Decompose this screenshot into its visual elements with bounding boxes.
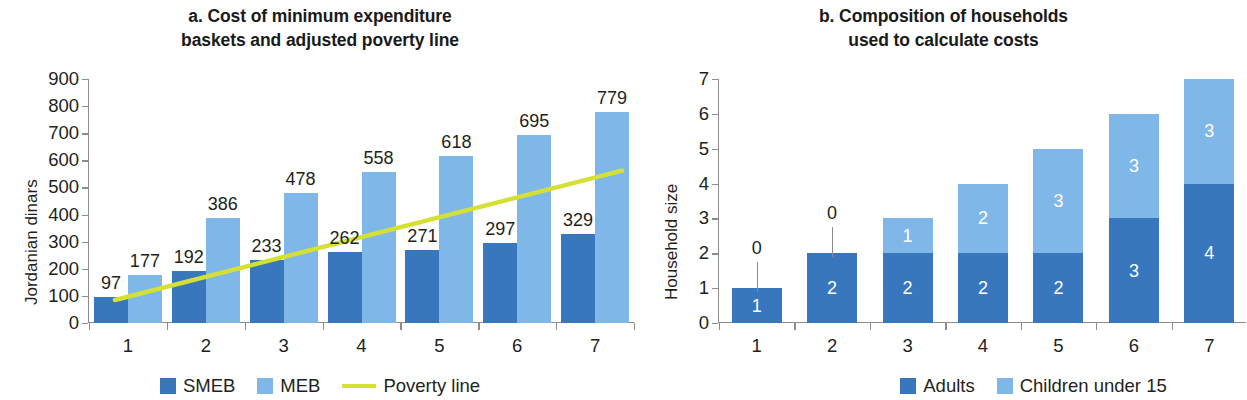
- x-tick-label[interactable]: 2: [827, 335, 837, 357]
- bar-value-label[interactable]: 329: [563, 210, 593, 231]
- legend-line-icon[interactable]: [342, 384, 376, 388]
- segment-value-label[interactable]: 2: [978, 278, 988, 299]
- y-tick-label[interactable]: 200: [29, 258, 79, 280]
- segment-value-label[interactable]: 3: [1129, 156, 1139, 177]
- y-tick-label[interactable]: 600: [29, 149, 79, 171]
- x-tick[interactable]: [1096, 323, 1097, 330]
- y-tick[interactable]: [82, 133, 88, 134]
- segment-value-label[interactable]: 2: [978, 208, 988, 229]
- y-tick[interactable]: [82, 296, 88, 297]
- bar-value-label[interactable]: 478: [286, 169, 316, 190]
- legend-item-poverty-line[interactable]: Poverty line: [342, 375, 480, 397]
- bar-value-label[interactable]: 386: [208, 194, 238, 215]
- bar-value-label[interactable]: 618: [441, 132, 471, 153]
- y-tick-label[interactable]: 400: [29, 204, 79, 226]
- x-tick[interactable]: [245, 323, 246, 330]
- y-tick[interactable]: [712, 79, 718, 80]
- bar-value-label[interactable]: 177: [130, 251, 160, 272]
- x-tick-label[interactable]: 6: [512, 335, 522, 357]
- y-tick-label[interactable]: 300: [29, 231, 79, 253]
- legend-item-meb[interactable]: MEB: [257, 375, 320, 397]
- y-tick-label[interactable]: 100: [29, 285, 79, 307]
- segment-value-label[interactable]: 2: [903, 278, 913, 299]
- x-tick[interactable]: [400, 323, 401, 330]
- bar-value-label[interactable]: 192: [174, 247, 204, 268]
- y-tick-label[interactable]: 0: [29, 312, 79, 334]
- x-tick-label[interactable]: 2: [201, 335, 211, 357]
- callout-leader-line[interactable]: [832, 227, 833, 257]
- legend-item-children-under-15[interactable]: Children under 15: [997, 375, 1167, 397]
- x-tick-label[interactable]: 4: [356, 335, 366, 357]
- x-tick[interactable]: [167, 323, 168, 330]
- y-tick[interactable]: [82, 106, 88, 107]
- legend-label[interactable]: Children under 15: [1020, 375, 1167, 397]
- legend-label[interactable]: SMEB: [183, 375, 235, 397]
- legend-swatch-icon[interactable]: [900, 378, 916, 394]
- y-tick-label[interactable]: 800: [29, 95, 79, 117]
- x-tick[interactable]: [870, 323, 871, 330]
- y-tick[interactable]: [82, 215, 88, 216]
- x-tick-label[interactable]: 3: [278, 335, 288, 357]
- x-tick-label[interactable]: 7: [590, 335, 600, 357]
- bar-value-label[interactable]: 297: [485, 219, 515, 240]
- x-tick[interactable]: [478, 323, 479, 330]
- legend-label[interactable]: Poverty line: [383, 375, 480, 397]
- y-tick-label[interactable]: 4: [673, 173, 709, 195]
- x-tick[interactable]: [945, 323, 946, 330]
- legend-swatch-icon[interactable]: [997, 378, 1013, 394]
- bar-value-label[interactable]: 97: [101, 273, 121, 294]
- y-tick-label[interactable]: 1: [673, 277, 709, 299]
- legend-swatch-icon[interactable]: [160, 378, 176, 394]
- segment-value-label[interactable]: 1: [903, 225, 913, 246]
- segment-value-label[interactable]: 3: [1204, 121, 1214, 142]
- x-tick-label[interactable]: 1: [752, 335, 762, 357]
- x-tick[interactable]: [556, 323, 557, 330]
- y-tick[interactable]: [712, 253, 718, 254]
- x-tick-label[interactable]: 1: [123, 335, 133, 357]
- y-tick-label[interactable]: 900: [29, 68, 79, 90]
- y-tick-label[interactable]: 500: [29, 176, 79, 198]
- callout-zero-label[interactable]: 0: [827, 203, 837, 224]
- y-tick-label[interactable]: 3: [673, 207, 709, 229]
- legend-label[interactable]: MEB: [280, 375, 320, 397]
- segment-value-label[interactable]: 3: [1053, 191, 1063, 212]
- x-tick-label[interactable]: 7: [1204, 335, 1214, 357]
- y-tick[interactable]: [82, 160, 88, 161]
- y-tick-label[interactable]: 6: [673, 103, 709, 125]
- x-tick-label[interactable]: 5: [434, 335, 444, 357]
- y-tick[interactable]: [712, 149, 718, 150]
- y-tick[interactable]: [712, 323, 718, 324]
- legend-swatch-icon[interactable]: [257, 378, 273, 394]
- x-tick[interactable]: [1172, 323, 1173, 330]
- segment-value-label[interactable]: 3: [1129, 260, 1139, 281]
- segment-value-label[interactable]: 2: [827, 278, 837, 299]
- y-tick[interactable]: [82, 323, 88, 324]
- legend-label[interactable]: Adults: [923, 375, 974, 397]
- y-tick[interactable]: [82, 187, 88, 188]
- segment-value-label[interactable]: 4: [1204, 243, 1214, 264]
- callout-leader-line[interactable]: [757, 262, 758, 292]
- segment-value-label[interactable]: 1: [752, 295, 762, 316]
- x-tick[interactable]: [89, 323, 90, 330]
- x-tick-label[interactable]: 5: [1053, 335, 1063, 357]
- legend-item-smeb[interactable]: SMEB: [160, 375, 235, 397]
- x-tick[interactable]: [634, 323, 635, 330]
- bar-value-label[interactable]: 558: [363, 148, 393, 169]
- callout-zero-label[interactable]: 0: [752, 238, 762, 259]
- bar-value-label[interactable]: 233: [252, 236, 282, 257]
- y-tick[interactable]: [712, 184, 718, 185]
- y-tick[interactable]: [712, 114, 718, 115]
- bar-value-label[interactable]: 262: [329, 228, 359, 249]
- x-tick[interactable]: [323, 323, 324, 330]
- legend-item-adults[interactable]: Adults: [900, 375, 974, 397]
- bar-value-label[interactable]: 271: [407, 226, 437, 247]
- x-tick-label[interactable]: 3: [902, 335, 912, 357]
- y-tick[interactable]: [82, 242, 88, 243]
- y-tick[interactable]: [82, 79, 88, 80]
- y-tick[interactable]: [82, 269, 88, 270]
- y-tick-label[interactable]: 7: [673, 68, 709, 90]
- y-tick-label[interactable]: 700: [29, 122, 79, 144]
- x-tick[interactable]: [794, 323, 795, 330]
- x-tick[interactable]: [719, 323, 720, 330]
- y-tick-label[interactable]: 2: [673, 242, 709, 264]
